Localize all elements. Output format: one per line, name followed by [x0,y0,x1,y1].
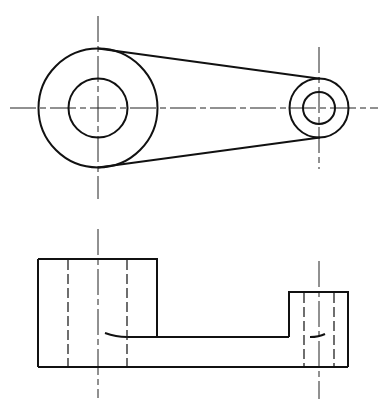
left-fillet-curve [105,333,127,337]
arm-top-tangent-line [98,49,320,79]
front-view [38,229,348,399]
top-view [10,16,378,199]
arm-bottom-tangent-line [98,138,320,168]
engineering-drawing [0,0,383,404]
right-fillet-curve [310,334,325,337]
